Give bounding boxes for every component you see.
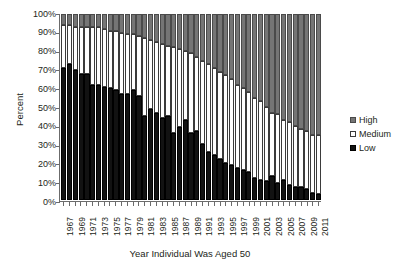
bar-stack[interactable] [90, 14, 95, 200]
bar-segment-medium [200, 61, 205, 145]
bar-stack[interactable] [113, 14, 118, 200]
bar-segment-medium [79, 27, 84, 74]
bar-segment-low [84, 74, 89, 200]
bar-segment-medium [281, 120, 286, 180]
bar-segment-high [142, 14, 147, 38]
bar-segment-low [316, 194, 321, 200]
bar-stack[interactable] [264, 14, 269, 200]
bar-stack[interactable] [269, 14, 274, 200]
x-tick-label: 1975 [113, 217, 122, 236]
x-tick-label: 1985 [171, 217, 180, 236]
bar-segment-high [108, 14, 113, 31]
bar-stack[interactable] [275, 14, 280, 200]
bar-stack[interactable] [194, 14, 199, 200]
bar-stack[interactable] [165, 14, 170, 200]
bar-stack[interactable] [125, 14, 130, 200]
legend-item-high[interactable]: High [350, 113, 412, 127]
bar-segment-high [177, 14, 182, 49]
x-tick-label: 2001 [263, 217, 272, 236]
bar-stack[interactable] [298, 14, 303, 200]
bar-segment-medium [264, 107, 269, 181]
bar-segment-medium [96, 27, 101, 85]
bar-stack[interactable] [200, 14, 205, 200]
bar-stack[interactable] [246, 14, 251, 200]
bar-segment-high [73, 14, 78, 27]
bar-stack[interactable] [142, 14, 147, 200]
bar-segment-low [200, 144, 205, 200]
bar-segment-low [264, 181, 269, 200]
bar-stack[interactable] [131, 14, 136, 200]
x-tick-label: 2003 [275, 217, 284, 236]
bar-stack[interactable] [102, 14, 107, 200]
bar-segment-high [229, 14, 234, 79]
legend-swatch-high-icon [350, 117, 356, 123]
y-tick-label: 30% [18, 141, 56, 150]
bar-stack[interactable] [252, 14, 257, 200]
bar-stack[interactable] [96, 14, 101, 200]
bar-stack[interactable] [79, 14, 84, 200]
bar-segment-medium [206, 64, 211, 151]
bar-segment-high [269, 14, 274, 113]
bar-stack[interactable] [310, 14, 315, 200]
legend-item-medium[interactable]: Medium [350, 127, 412, 141]
bar-stack[interactable] [223, 14, 228, 200]
bar-segment-high [287, 14, 292, 122]
bar-segment-medium [142, 38, 147, 116]
bar-segment-medium [90, 27, 95, 85]
bar-stack[interactable] [160, 14, 165, 200]
bar-stack[interactable] [136, 14, 141, 200]
x-tick-label: 1999 [252, 217, 261, 236]
bar-stack[interactable] [154, 14, 159, 200]
bar-segment-high [165, 14, 170, 46]
bar-segment-medium [73, 27, 78, 70]
bar-stack[interactable] [61, 14, 66, 200]
bar-stack[interactable] [183, 14, 188, 200]
bar-stack[interactable] [177, 14, 182, 200]
bar-stack[interactable] [316, 14, 321, 200]
bar-segment-medium [269, 113, 274, 176]
bar-stack[interactable] [206, 14, 211, 200]
bar-stack[interactable] [108, 14, 113, 200]
bar-segment-medium [148, 40, 153, 109]
bar-stack[interactable] [67, 14, 72, 200]
bar-segment-medium [113, 31, 118, 91]
bar-stack[interactable] [84, 14, 89, 200]
bar-segment-low [229, 165, 234, 200]
bar-segment-high [241, 14, 246, 88]
bar-segment-high [235, 14, 240, 85]
bar-stack[interactable] [188, 14, 193, 200]
bar-stack[interactable] [235, 14, 240, 200]
bar-stack[interactable] [229, 14, 234, 200]
bar-segment-high [223, 14, 228, 75]
bar-segment-medium [275, 114, 280, 183]
x-tick-label: 2009 [310, 217, 319, 236]
legend-item-low[interactable]: Low [350, 141, 412, 155]
bar-stack[interactable] [258, 14, 263, 200]
bar-stack[interactable] [241, 14, 246, 200]
bar-stack[interactable] [217, 14, 222, 200]
bar-segment-medium [304, 131, 309, 189]
bar-stack[interactable] [171, 14, 176, 200]
bar-segment-low [252, 178, 257, 200]
x-tick-label: 1979 [136, 217, 145, 236]
bar-stack[interactable] [304, 14, 309, 200]
bar-stack[interactable] [281, 14, 286, 200]
bar-segment-low [235, 168, 240, 200]
bar-segment-low [108, 88, 113, 200]
x-tick-label: 1995 [229, 217, 238, 236]
bar-stack[interactable] [293, 14, 298, 200]
bar-stack[interactable] [212, 14, 217, 200]
bar-segment-medium [252, 98, 257, 178]
bar-stack[interactable] [148, 14, 153, 200]
bar-stack[interactable] [73, 14, 78, 200]
bar-segment-low [79, 74, 84, 200]
y-tick-label: 20% [18, 160, 56, 169]
bar-segment-low [183, 120, 188, 200]
bar-segment-medium [108, 31, 113, 89]
bar-segment-high [217, 14, 222, 72]
bar-stack[interactable] [119, 14, 124, 200]
bar-segment-high [96, 14, 101, 27]
x-tick-label: 1973 [101, 217, 110, 236]
bar-stack[interactable] [287, 14, 292, 200]
x-tick-label: 1997 [240, 217, 249, 236]
